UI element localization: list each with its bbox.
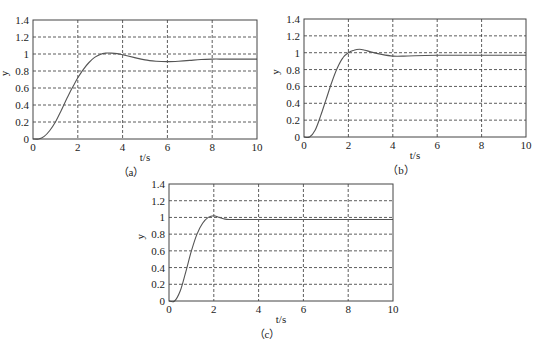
y-tick-label: 1.4	[286, 13, 300, 25]
y-tick-label: 0	[160, 295, 166, 307]
y-tick-label: 0.4	[15, 99, 29, 111]
x-tick-label: 4	[120, 141, 126, 153]
response-curve	[33, 53, 257, 139]
chart-panel-a: 00.20.40.60.811.21.40246810t/sy（a）	[0, 14, 263, 178]
chart-caption: （c）	[254, 328, 281, 340]
plot-frame	[304, 19, 526, 137]
grid-lines	[304, 19, 526, 137]
y-axis-label: y	[269, 69, 281, 75]
chart-panel-c: 00.20.40.60.811.21.40246810t/sy（c）	[134, 178, 399, 340]
y-tick-label: 0.6	[286, 80, 300, 92]
x-tick-label: 6	[434, 139, 440, 151]
x-tick-label: 2	[211, 303, 217, 315]
y-tick-label: 1.2	[15, 31, 29, 43]
x-tick-label: 0	[301, 139, 307, 151]
y-tick-label: 0.8	[151, 228, 165, 240]
grid-lines	[169, 184, 393, 301]
x-tick-label: 10	[521, 139, 533, 151]
x-tick-label: 2	[75, 141, 81, 153]
figure-canvas: 00.20.40.60.811.21.40246810t/sy（a） 00.20…	[0, 0, 542, 347]
y-tick-label: 1	[160, 211, 166, 223]
x-tick-label: 6	[165, 141, 171, 153]
y-tick-label: 0.2	[15, 116, 29, 128]
plot-frame	[169, 184, 393, 301]
x-tick-label: 2	[346, 139, 352, 151]
x-tick-label: 0	[30, 141, 36, 153]
x-tick-label: 8	[345, 303, 351, 315]
x-axis-label: t/s	[140, 151, 150, 163]
x-axis-label: t/s	[410, 149, 420, 161]
y-tick-label: 0.2	[151, 278, 165, 290]
y-tick-label: 1.2	[151, 195, 165, 207]
y-tick-label: 1.4	[15, 14, 29, 26]
x-axis-label: t/s	[276, 313, 286, 325]
y-tick-label: 0.4	[151, 262, 165, 274]
y-axis-label: y	[134, 233, 146, 239]
x-tick-label: 6	[301, 303, 307, 315]
response-curve	[169, 216, 393, 302]
y-tick-label: 0	[24, 133, 30, 145]
y-tick-label: 1.4	[151, 178, 165, 190]
x-tick-label: 10	[252, 141, 264, 153]
chart-caption: （b）	[387, 164, 415, 176]
y-tick-label: 0	[295, 131, 301, 143]
chart-panel-b: 00.20.40.60.811.21.40246810t/sy（b）	[269, 13, 532, 176]
x-tick-label: 4	[390, 139, 396, 151]
chart-caption: （a）	[118, 166, 145, 178]
y-tick-label: 0.8	[15, 65, 29, 77]
y-tick-label: 1.2	[286, 30, 300, 42]
y-tick-label: 1	[24, 48, 30, 60]
y-axis-label: y	[0, 70, 10, 76]
response-curve	[304, 49, 526, 137]
y-tick-label: 0.4	[286, 97, 300, 109]
y-tick-label: 0.6	[151, 245, 165, 257]
x-tick-label: 0	[166, 303, 172, 315]
x-tick-label: 4	[256, 303, 262, 315]
y-tick-label: 0.2	[286, 114, 300, 126]
y-tick-label: 0.6	[15, 82, 29, 94]
x-tick-label: 10	[388, 303, 400, 315]
plot-frame	[33, 20, 257, 139]
x-tick-label: 8	[209, 141, 215, 153]
grid-lines	[33, 20, 257, 139]
y-tick-label: 0.8	[286, 64, 300, 76]
x-tick-label: 8	[479, 139, 485, 151]
y-tick-label: 1	[295, 47, 301, 59]
